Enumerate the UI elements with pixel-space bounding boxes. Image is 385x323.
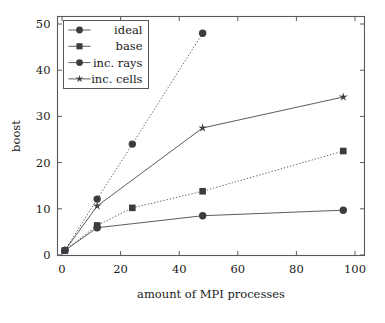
marker-circle <box>76 27 83 34</box>
series-line <box>65 151 343 250</box>
y-tick-label: 30 <box>36 109 51 123</box>
marker-square <box>76 43 82 49</box>
series-line <box>65 97 343 250</box>
y-tick-label: 50 <box>36 17 51 31</box>
y-tick-label: 20 <box>36 156 51 170</box>
marker-circle <box>93 224 100 231</box>
x-tick-label: 60 <box>230 262 245 276</box>
legend-label: ideal <box>114 23 143 37</box>
marker-circle <box>76 59 83 66</box>
marker-square <box>199 188 206 195</box>
legend-label: base <box>116 39 143 53</box>
marker-star <box>93 201 102 209</box>
y-axis-title: boost <box>9 120 23 152</box>
marker-circle <box>129 140 136 147</box>
x-tick-label: 80 <box>289 262 304 276</box>
plot-canvas: 01020304050020406080100amount of MPI pro… <box>0 0 385 323</box>
legend: idealbaseinc. raysinc. cells <box>64 21 149 89</box>
marker-square <box>340 148 347 155</box>
marker-circle <box>199 212 206 219</box>
x-tick-label: 40 <box>172 262 187 276</box>
x-tick-label: 20 <box>113 262 128 276</box>
marker-star <box>339 92 348 100</box>
marker-circle <box>199 30 206 37</box>
marker-square <box>129 205 136 212</box>
y-tick-label: 0 <box>43 248 50 262</box>
legend-label: inc. rays <box>93 56 143 70</box>
y-tick-label: 10 <box>36 202 51 216</box>
y-tick-label: 40 <box>36 63 51 77</box>
x-axis-title: amount of MPI processes <box>137 287 285 301</box>
legend-label: inc. cells <box>91 72 142 86</box>
marker-circle <box>340 206 347 213</box>
series-inc-cells <box>61 92 348 254</box>
series-inc-rays <box>61 206 347 254</box>
x-tick-label: 100 <box>344 262 366 276</box>
chart-figure: 01020304050020406080100amount of MPI pro… <box>0 0 385 323</box>
x-tick-label: 0 <box>58 262 65 276</box>
